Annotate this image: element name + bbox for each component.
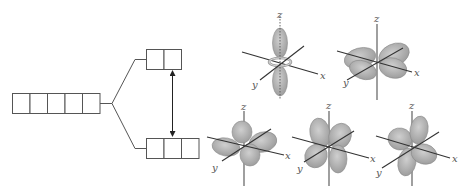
- axis-label-y: y: [211, 162, 218, 173]
- axis-label-z: z: [325, 100, 332, 111]
- orbital-upper-right: z x y: [337, 13, 420, 100]
- orbital-splitting-diagram: z x y z x y z x y z x: [0, 0, 469, 193]
- axis-label-x: x: [414, 67, 420, 78]
- orbital-dz2: z x y: [242, 9, 326, 100]
- axis-label-x: x: [452, 153, 458, 164]
- orbital-box: [147, 139, 165, 159]
- splitting-lines: [100, 60, 146, 149]
- axis-label-z: z: [276, 9, 283, 20]
- upper-level-boxes: [147, 50, 182, 70]
- axis-label-x: x: [285, 150, 291, 161]
- axis-label-y: y: [375, 167, 382, 178]
- orbital-box: [164, 139, 182, 159]
- axis-label-x: x: [370, 153, 376, 164]
- orbital-box: [83, 94, 101, 114]
- degenerate-level-boxes: [13, 94, 101, 114]
- orbital-lower-2: z x y: [292, 100, 376, 186]
- orbital-box: [147, 50, 165, 70]
- orbital-box: [65, 94, 83, 114]
- axis-label-z: z: [408, 100, 415, 111]
- axis-label-z: z: [240, 101, 247, 112]
- axis-label-z: z: [373, 13, 380, 24]
- orbital-box: [48, 94, 66, 114]
- axis-label-x: x: [320, 70, 326, 81]
- orbital-box: [164, 50, 182, 70]
- axis-label-y: y: [296, 163, 303, 174]
- axis-label-y: y: [251, 79, 258, 90]
- orbital-lower-1: z x y: [207, 101, 291, 186]
- orbital-box: [13, 94, 31, 114]
- axis-label-y: y: [342, 77, 349, 88]
- orbital-lower-3: z x y: [375, 100, 458, 186]
- lower-level-boxes: [147, 139, 200, 159]
- orbital-box: [182, 139, 200, 159]
- orbital-box: [30, 94, 48, 114]
